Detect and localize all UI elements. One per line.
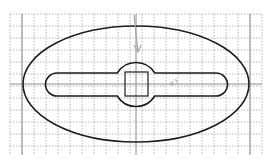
slot-with-center-circle[interactable]	[46, 63, 228, 107]
sketch-canvas[interactable]	[0, 0, 273, 165]
point-marker-icon	[170, 80, 177, 86]
cursor-arrow-icon	[134, 15, 141, 52]
sketch-drawing	[0, 0, 273, 165]
